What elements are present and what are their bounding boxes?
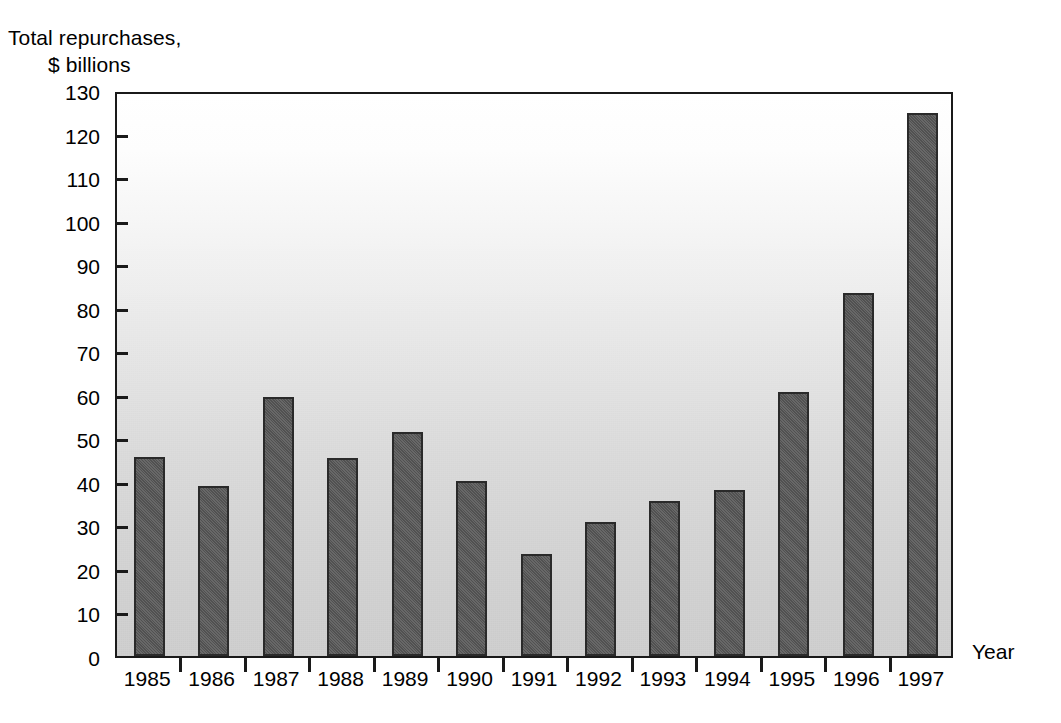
y-tick-label-50: 50 (38, 430, 100, 451)
y-tick-label-0: 0 (38, 648, 100, 669)
bar-1994 (714, 490, 745, 656)
bar-1988 (327, 458, 358, 656)
y-tick-label-120: 120 (38, 126, 100, 147)
x-tick-label-1995: 1995 (757, 668, 827, 689)
bar-1996 (843, 293, 874, 656)
y-tick-80 (115, 309, 128, 312)
x-tick-label-1991: 1991 (499, 668, 569, 689)
x-tick-label-1985: 1985 (112, 668, 182, 689)
y-tick-label-30: 30 (38, 517, 100, 538)
bar-1997 (907, 113, 938, 656)
x-axis-title: Year (972, 641, 1014, 662)
y-tick-50 (115, 439, 128, 442)
x-tick-label-1994: 1994 (692, 668, 762, 689)
bar-1993 (649, 501, 680, 656)
bars-layer (117, 94, 951, 656)
y-tick-label-100: 100 (38, 213, 100, 234)
x-tick-label-1992: 1992 (563, 668, 633, 689)
y-tick-120 (115, 135, 128, 138)
y-tick-label-10: 10 (38, 604, 100, 625)
bar-1995 (778, 392, 809, 656)
x-tick-label-1997: 1997 (886, 668, 956, 689)
y-tick-90 (115, 265, 128, 268)
y-tick-100 (115, 222, 128, 225)
y-tick-110 (115, 178, 128, 181)
y-tick-label-110: 110 (38, 169, 100, 190)
bar-chart: Total repurchases, $ billions 0102030405… (0, 0, 1061, 723)
x-tick-label-1990: 1990 (435, 668, 505, 689)
y-tick-label-40: 40 (38, 474, 100, 495)
y-axis-title: Total repurchases, $ billions (8, 24, 181, 79)
y-tick-30 (115, 526, 128, 529)
y-tick-label-20: 20 (38, 561, 100, 582)
y-axis-title-line-2: $ billions (8, 51, 181, 78)
y-tick-40 (115, 483, 128, 486)
y-tick-60 (115, 396, 128, 399)
y-axis-title-line-1: Total repurchases, (8, 24, 181, 51)
x-tick-label-1989: 1989 (370, 668, 440, 689)
x-tick-label-1996: 1996 (821, 668, 891, 689)
x-tick-label-1993: 1993 (628, 668, 698, 689)
y-tick-label-90: 90 (38, 256, 100, 277)
x-tick-label-1988: 1988 (306, 668, 376, 689)
y-tick-label-130: 130 (38, 82, 100, 103)
x-tick-label-1986: 1986 (177, 668, 247, 689)
plot-area (115, 92, 953, 658)
x-tick-label-1987: 1987 (241, 668, 311, 689)
y-tick-10 (115, 613, 128, 616)
bar-1987 (263, 397, 294, 656)
y-tick-label-80: 80 (38, 300, 100, 321)
bar-1986 (198, 486, 229, 656)
bar-1990 (456, 481, 487, 656)
bar-1989 (392, 432, 423, 656)
y-tick-label-70: 70 (38, 343, 100, 364)
bar-1991 (521, 554, 552, 656)
bar-1985 (134, 457, 165, 656)
y-tick-20 (115, 570, 128, 573)
y-tick-label-60: 60 (38, 387, 100, 408)
bar-1992 (585, 522, 616, 656)
y-tick-70 (115, 352, 128, 355)
